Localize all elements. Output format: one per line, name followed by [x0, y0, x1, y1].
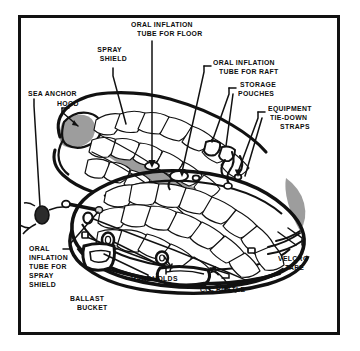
label-velcro-tape-line2: TAPE: [285, 264, 304, 273]
label-sea-anchor: SEA ANCHOR: [28, 90, 77, 99]
label-spray-shield-line2: SHIELD: [8, 55, 127, 64]
label-equipment-tiedown-line3: STRAPS: [280, 123, 310, 132]
label-oral-inflation-floor-line2: TUBE FOR FLOOR: [137, 30, 203, 39]
label-co2-bottle-prefix: CO: [200, 285, 211, 294]
sea-anchor-fitting: [20, 203, 69, 234]
label-oral-spray-line5: SHIELD: [29, 281, 56, 290]
label-handholds: HANDHOLDS: [131, 275, 178, 284]
leader-sea-anchor: [34, 99, 40, 206]
leader-oral-raft: [182, 66, 204, 172]
label-oral-inflation-raft-line2: TUBE FOR RAFT: [219, 68, 279, 77]
label-co2-bottle: CO2 BOTTLE: [200, 286, 245, 297]
label-hood: HOOD: [57, 100, 79, 109]
label-storage-pouches-line2: POUCHES: [238, 90, 274, 99]
figure-page: SEA ANCHOR HOOD SPRAY SHIELD ORAL INFLAT…: [0, 0, 360, 351]
label-co2-bottle-suffix: BOTTLE: [214, 285, 246, 294]
leader-storage-b: [226, 94, 233, 146]
label-ballast-bucket-line2: BUCKET: [77, 304, 108, 313]
